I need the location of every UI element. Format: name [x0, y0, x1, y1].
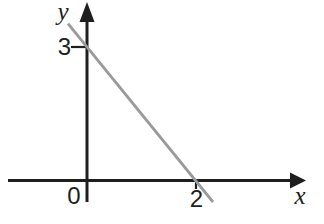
line-graph-figure: y x 3 0 2 — [0, 0, 324, 224]
x-axis-label: x — [293, 182, 305, 209]
line-graph-canvas: y x 3 0 2 — [0, 0, 324, 224]
y-axis-label: y — [54, 0, 69, 25]
y-tick-label-3: 3 — [58, 33, 71, 60]
plotted-line — [68, 24, 213, 202]
x-tick-label-2: 2 — [190, 185, 203, 212]
y-axis-arrowhead — [80, 2, 95, 22]
origin-label: 0 — [67, 182, 80, 209]
